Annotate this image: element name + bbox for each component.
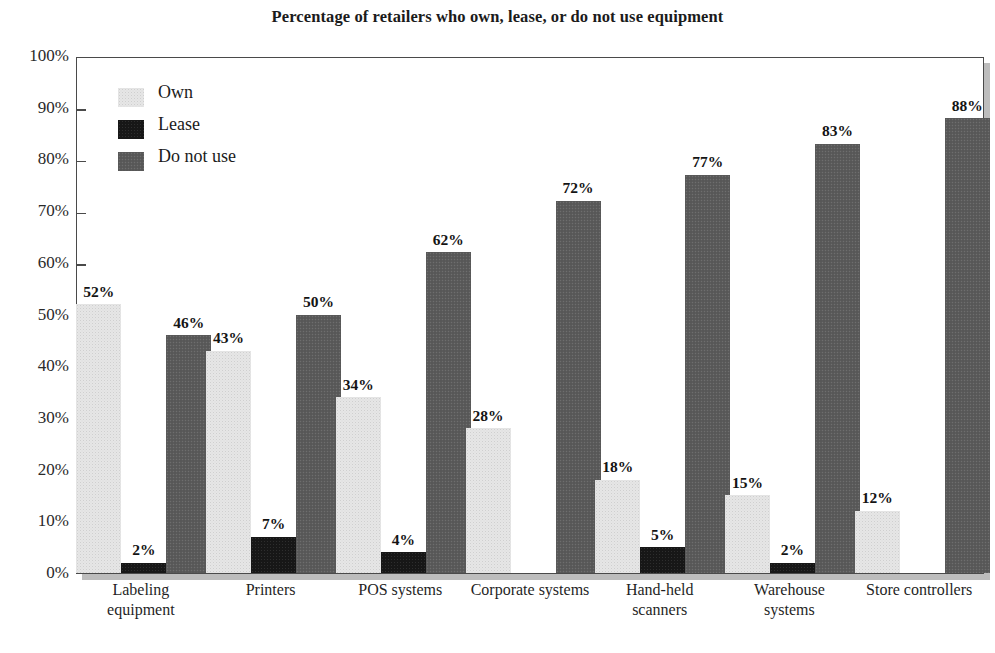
bar-value-label: 4%: [392, 532, 415, 548]
bar-lease[interactable]: [770, 563, 815, 573]
bar-value-label: 83%: [822, 123, 853, 139]
bar-do-not-use[interactable]: [296, 315, 341, 574]
bar-own[interactable]: [725, 495, 770, 573]
bar-do-not-use[interactable]: [815, 144, 860, 573]
bar-do-not-use[interactable]: [556, 201, 601, 573]
y-axis-tick-label: 50%: [38, 305, 69, 325]
legend-swatch-icon: [118, 152, 144, 171]
bar-value-label: 5%: [651, 527, 674, 543]
bar-value-label: 88%: [952, 98, 983, 114]
x-axis-category-label: Store controllers: [842, 580, 995, 600]
y-axis-tick-label: 70%: [38, 201, 69, 221]
legend-item-lease[interactable]: Lease: [118, 114, 298, 146]
y-axis-tick-label: 40%: [38, 356, 69, 376]
bar-group: 18%5%77%: [595, 58, 730, 573]
bar-do-not-use[interactable]: [685, 175, 730, 573]
bar-value-label: 28%: [473, 408, 504, 424]
bar-value-label: 12%: [862, 490, 893, 506]
bar-do-not-use[interactable]: [426, 252, 471, 573]
x-axis-category-label-line: equipment: [64, 600, 218, 620]
bar-value-label: 18%: [602, 459, 633, 475]
bar-value-label: 2%: [132, 542, 155, 558]
x-axis-category-label-line: Store controllers: [842, 580, 995, 600]
chart-legend: OwnLeaseDo not use: [118, 82, 298, 178]
y-axis-tick-label: 80%: [38, 149, 69, 169]
bar-value-label: 15%: [732, 475, 763, 491]
x-axis-category-labels: LabelingequipmentPrintersPOS systemsCorp…: [76, 580, 984, 640]
legend-item-own[interactable]: Own: [118, 82, 298, 114]
bar-chart-figure: Percentage of retailers who own, lease, …: [0, 0, 995, 653]
legend-item-label: Lease: [158, 114, 200, 135]
bar-do-not-use[interactable]: [166, 335, 211, 573]
bar-lease[interactable]: [121, 563, 166, 573]
bar-value-label: 72%: [563, 180, 594, 196]
y-axis-tick-label: 100%: [29, 46, 69, 66]
bar-lease[interactable]: [251, 537, 296, 573]
bar-own[interactable]: [595, 480, 640, 573]
legend-item-label: Do not use: [158, 146, 236, 167]
y-axis-tick-label: 20%: [38, 460, 69, 480]
bar-group: 34%4%62%: [336, 58, 471, 573]
bar-value-label: 7%: [262, 516, 285, 532]
bar-do-not-use[interactable]: [945, 118, 990, 573]
bar-lease[interactable]: [640, 547, 685, 573]
bar-group: 15%2%83%: [725, 58, 860, 573]
bar-own[interactable]: [76, 304, 121, 573]
bar-own[interactable]: [466, 428, 511, 573]
bar-lease[interactable]: [381, 552, 426, 573]
legend-swatch-icon: [118, 88, 144, 107]
bar-value-label: 62%: [433, 232, 464, 248]
y-axis-tick-label: 10%: [38, 511, 69, 531]
bar-value-label: 34%: [343, 377, 374, 393]
bar-own[interactable]: [855, 511, 900, 573]
bar-value-label: 46%: [173, 315, 204, 331]
y-axis-tick-label: 60%: [38, 253, 69, 273]
legend-swatch-icon: [118, 120, 144, 139]
bar-group: 28%72%: [466, 58, 601, 573]
bar-own[interactable]: [206, 351, 251, 573]
bar-group: 12%88%: [855, 58, 990, 573]
legend-item-do-not-use[interactable]: Do not use: [118, 146, 298, 178]
legend-item-label: Own: [158, 82, 193, 103]
bar-own[interactable]: [336, 397, 381, 573]
y-axis-tick-label: 90%: [38, 98, 69, 118]
bar-value-label: 43%: [213, 330, 244, 346]
x-axis-category-label-line: systems: [713, 600, 867, 620]
bar-value-label: 52%: [83, 284, 114, 300]
bar-value-label: 2%: [781, 542, 804, 558]
bar-value-label: 77%: [692, 154, 723, 170]
y-axis-tick-label: 30%: [38, 408, 69, 428]
chart-title: Percentage of retailers who own, lease, …: [0, 7, 995, 27]
bar-value-label: 50%: [303, 294, 334, 310]
